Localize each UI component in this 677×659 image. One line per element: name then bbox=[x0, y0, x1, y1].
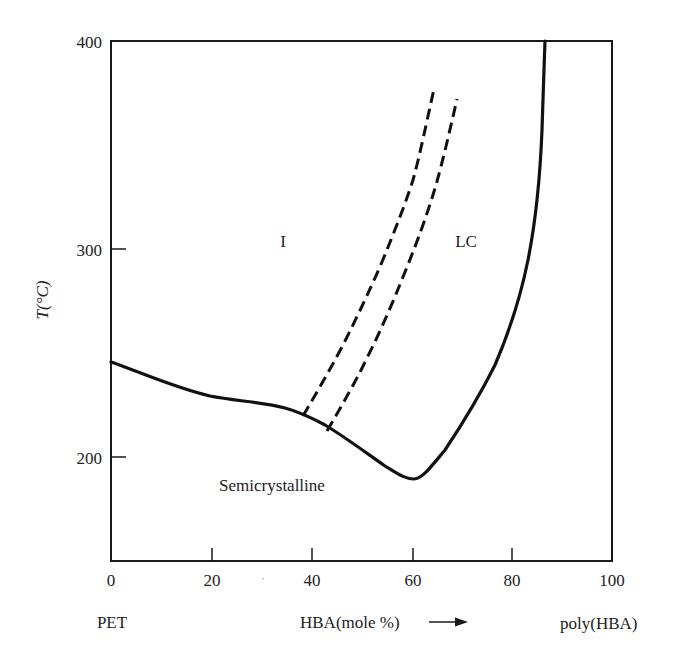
region-label-isotropic: I bbox=[280, 232, 286, 251]
x-tick-60: 60 bbox=[405, 571, 422, 590]
x-tick-0: 0 bbox=[107, 571, 116, 590]
solid-phase-boundary bbox=[111, 41, 545, 479]
x-tick-100: 100 bbox=[599, 571, 625, 590]
y-tick-400: 400 bbox=[77, 33, 103, 52]
x-tick-80: 80 bbox=[504, 571, 521, 590]
plot-frame bbox=[111, 41, 612, 561]
y-axis-ticks bbox=[111, 249, 126, 457]
arrow-right-icon bbox=[429, 618, 468, 627]
dashed-boundary-2 bbox=[327, 99, 457, 431]
x-tick-40: 40 bbox=[304, 571, 321, 590]
y-tick-300: 300 bbox=[77, 241, 103, 260]
dashed-boundary-1 bbox=[303, 89, 434, 416]
phase-diagram: 400 300 200 T(°C) 0 20 40 60 80 100 ' PE… bbox=[0, 0, 677, 659]
x-left-label: PET bbox=[97, 613, 128, 632]
region-label-lc: LC bbox=[455, 232, 477, 251]
y-tick-200: 200 bbox=[77, 449, 103, 468]
x-axis-ticks bbox=[212, 548, 512, 561]
region-label-semicrystalline: Semicrystalline bbox=[219, 476, 325, 495]
x-axis-title: HBA(mole %) bbox=[300, 613, 400, 632]
x-tick-20: 20 bbox=[204, 571, 221, 590]
stray-mark: ' bbox=[262, 576, 264, 586]
x-right-label: poly(HBA) bbox=[560, 614, 637, 633]
y-axis-title: T(°C) bbox=[33, 280, 52, 319]
